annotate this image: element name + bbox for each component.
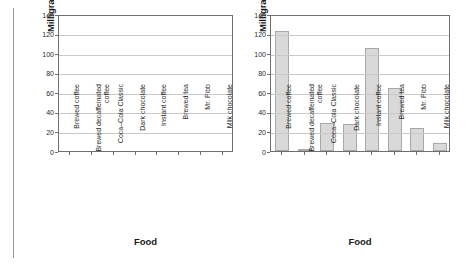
x-tick-label: Dark chocolate — [139, 84, 147, 156]
y-tick-mark — [55, 152, 58, 153]
chart-panel-bars: Milligrams of Caffeine Food 020406080100… — [238, 0, 476, 266]
y-tick-mark — [267, 74, 270, 75]
y-tick-label: 60 — [34, 90, 54, 97]
y-tick-label: 120 — [34, 31, 54, 38]
x-tick-label: Coca–Cola Classic — [117, 84, 125, 156]
x-tick-label: Brewed tea — [398, 84, 406, 156]
gridline — [271, 74, 449, 75]
y-tick-label: 120 — [246, 31, 266, 38]
y-tick-label: 100 — [246, 51, 266, 58]
x-tick-label: Brewed decaffeinated coffee — [95, 84, 111, 156]
x-tick-label: Brewed tea — [182, 84, 190, 156]
x-tick-label: Milk chocolate — [226, 84, 234, 156]
x-axis-title: Food — [270, 236, 450, 247]
y-tick-mark — [267, 152, 270, 153]
x-axis-labels: Brewed coffeeBrewed decaffeinated coffee… — [0, 156, 238, 226]
x-axis-title: Food — [58, 236, 233, 247]
gridline — [59, 74, 232, 75]
y-tick-mark — [267, 93, 270, 94]
y-tick-mark — [55, 132, 58, 133]
y-tick-label: 20 — [34, 129, 54, 136]
x-tick-mark — [439, 152, 440, 155]
gridline — [271, 35, 449, 36]
y-tick-label: 40 — [246, 109, 266, 116]
x-tick-mark — [394, 152, 395, 155]
x-tick-label: Mr. Pibb — [420, 84, 428, 156]
gridline — [59, 35, 232, 36]
gridline — [59, 55, 232, 56]
y-tick-mark — [55, 35, 58, 36]
y-tick-mark — [55, 15, 58, 16]
x-tick-mark — [371, 152, 372, 155]
x-tick-mark — [135, 152, 136, 155]
x-tick-mark — [156, 152, 157, 155]
y-tick-label: 20 — [246, 129, 266, 136]
y-tick-label: 80 — [246, 70, 266, 77]
y-tick-mark — [55, 93, 58, 94]
x-tick-mark — [304, 152, 305, 155]
x-tick-mark — [91, 152, 92, 155]
x-tick-mark — [69, 152, 70, 155]
x-axis-labels: Brewed coffeeBrewed decaffeinated coffee… — [238, 156, 476, 226]
chart-panel-blank: Milligrams of Caffeine Food 020406080100… — [0, 0, 238, 266]
y-tick-mark — [267, 35, 270, 36]
x-tick-mark — [281, 152, 282, 155]
x-tick-label: Mr. Pibb — [204, 84, 212, 156]
x-tick-label: Brewed decaffeinated coffee — [308, 84, 324, 156]
x-tick-mark — [222, 152, 223, 155]
y-tick-mark — [267, 132, 270, 133]
x-tick-mark — [113, 152, 114, 155]
x-tick-label: Milk chocolate — [443, 84, 451, 156]
y-tick-mark — [267, 15, 270, 16]
x-tick-mark — [326, 152, 327, 155]
y-tick-label: 40 — [34, 109, 54, 116]
x-tick-label: Dark chocolate — [353, 84, 361, 156]
y-tick-label: 0 — [246, 149, 266, 156]
x-tick-label: Instant coffee — [160, 84, 168, 156]
x-tick-label: Brewed coffee — [73, 84, 81, 156]
y-tick-mark — [267, 54, 270, 55]
y-tick-label: 80 — [34, 70, 54, 77]
gridline — [271, 55, 449, 56]
y-tick-label: 140 — [246, 12, 266, 19]
y-tick-label: 60 — [246, 90, 266, 97]
x-tick-mark — [178, 152, 179, 155]
y-tick-label: 140 — [34, 12, 54, 19]
y-tick-mark — [55, 113, 58, 114]
x-tick-label: Instant coffee — [375, 84, 383, 156]
x-tick-label: Coca–Cola Classic — [330, 84, 338, 156]
y-tick-mark — [267, 113, 270, 114]
y-tick-mark — [55, 74, 58, 75]
y-tick-label: 0 — [34, 149, 54, 156]
x-tick-mark — [349, 152, 350, 155]
x-tick-mark — [200, 152, 201, 155]
y-tick-mark — [55, 54, 58, 55]
x-tick-mark — [416, 152, 417, 155]
x-tick-label: Brewed coffee — [285, 84, 293, 156]
y-tick-label: 100 — [34, 51, 54, 58]
